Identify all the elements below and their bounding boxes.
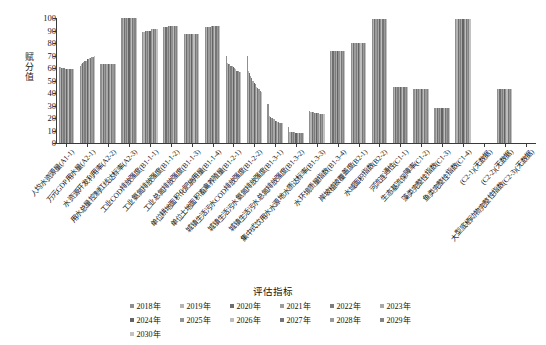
x-tick-mark (171, 144, 172, 147)
bar-group (518, 18, 533, 143)
y-tick-mark (53, 68, 56, 69)
bar (449, 108, 450, 143)
bar (365, 43, 366, 143)
bar-groups (56, 18, 536, 143)
legend-label: 2027年 (287, 314, 311, 325)
legend-item[interactable]: 2029年 (380, 314, 430, 325)
legend-label: 2030年 (137, 328, 161, 339)
legend-swatch-icon (380, 304, 384, 308)
legend-item[interactable]: 2023年 (380, 300, 430, 311)
x-axis-title: 评估指标 (0, 284, 546, 298)
legend-swatch-icon (330, 304, 334, 308)
legend-item[interactable]: 2026年 (230, 314, 280, 325)
legend-label: 2020年 (237, 300, 261, 311)
bar (261, 92, 262, 143)
legend-label: 2022年 (337, 300, 361, 311)
x-tick-mark (108, 144, 109, 147)
bar-group (226, 18, 241, 143)
legend-item[interactable]: 2018年 (130, 300, 180, 311)
bar (303, 133, 304, 143)
x-tick-mark (192, 144, 193, 147)
x-tick-mark (442, 144, 443, 147)
x-tick-mark (317, 144, 318, 147)
x-tick-mark (296, 144, 297, 147)
legend-label: 2026年 (237, 314, 261, 325)
legend-item[interactable]: 2027年 (280, 314, 330, 325)
legend-item[interactable]: 2024年 (130, 314, 180, 325)
bar-group (59, 18, 74, 143)
x-tick-mark (421, 144, 422, 147)
x-tick-mark (400, 144, 401, 147)
bar (282, 123, 283, 143)
x-tick-mark (254, 144, 255, 147)
x-tick-mark (66, 144, 67, 147)
bar (386, 19, 387, 143)
legend-item[interactable]: 2028年 (330, 314, 380, 325)
legend-label: 2023年 (387, 300, 411, 311)
y-tick-mark (53, 131, 56, 132)
legend-swatch-icon (130, 318, 134, 322)
legend-item[interactable]: 2020年 (230, 300, 280, 311)
legend-swatch-icon (130, 332, 134, 336)
bar-group (80, 18, 95, 143)
legend-swatch-icon (280, 318, 284, 322)
chart-root: 赋分值 0102030405060708090100 人均水资源量(A1-1)万… (0, 0, 546, 345)
bar (407, 87, 408, 143)
bar (219, 26, 220, 144)
y-tick-mark (53, 93, 56, 94)
legend-label: 2021年 (287, 300, 311, 311)
bar-group (247, 18, 262, 143)
x-tick-mark (275, 144, 276, 147)
legend-swatch-icon (380, 318, 384, 322)
chart-plot-area: 赋分值 0102030405060708090100 人均水资源量(A1-1)万… (0, 0, 546, 345)
legend-item[interactable]: 2022年 (330, 300, 380, 311)
legend-label: 2028年 (337, 314, 361, 325)
x-tick-mark (338, 144, 339, 147)
legend-label: 2019年 (187, 300, 211, 311)
bar (240, 72, 241, 143)
x-tick-mark (484, 144, 485, 147)
y-tick-mark (53, 31, 56, 32)
chart-legend: 2018年2019年2020年2021年2022年2023年2024年2025年… (130, 300, 430, 342)
x-tick-mark (87, 144, 88, 147)
bar-group (205, 18, 220, 143)
legend-label: 2025年 (187, 314, 211, 325)
bar-group (434, 18, 449, 143)
bar-group (184, 18, 199, 143)
bar-group (413, 18, 428, 143)
bar-group (497, 18, 512, 143)
bar-group (288, 18, 303, 143)
bar (115, 64, 116, 143)
y-tick-mark (53, 143, 56, 144)
bar (511, 89, 512, 143)
x-tick-mark (526, 144, 527, 147)
bar-group (455, 18, 470, 143)
x-tick-mark (505, 144, 506, 147)
y-tick-mark (53, 106, 56, 107)
legend-swatch-icon (180, 318, 184, 322)
bar-group (267, 18, 282, 143)
legend-swatch-icon (280, 304, 284, 308)
y-tick-mark (53, 56, 56, 57)
legend-label: 2029年 (387, 314, 411, 325)
bar (469, 19, 470, 143)
bar (156, 29, 157, 143)
legend-item[interactable]: 2021年 (280, 300, 330, 311)
legend-item[interactable]: 2019年 (180, 300, 230, 311)
bar-group (163, 18, 178, 143)
x-tick-mark (129, 144, 130, 147)
bar (136, 18, 137, 143)
x-tick-mark (379, 144, 380, 147)
legend-item[interactable]: 2025年 (180, 314, 230, 325)
y-tick-mark (53, 81, 56, 82)
bar (73, 69, 74, 143)
y-tick-mark (53, 18, 56, 19)
legend-swatch-icon (330, 318, 334, 322)
y-tick-mark (53, 118, 56, 119)
x-tick-mark (359, 144, 360, 147)
legend-swatch-icon (230, 304, 234, 308)
legend-swatch-icon (230, 318, 234, 322)
legend-item[interactable]: 2030年 (130, 328, 180, 339)
bar-group (309, 18, 324, 143)
bar-group (351, 18, 366, 143)
